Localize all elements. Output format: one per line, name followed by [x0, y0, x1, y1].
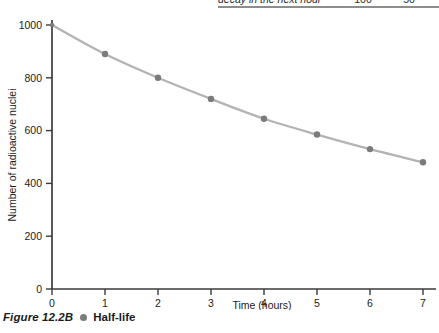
x-axis-title: Time (hours): [232, 299, 291, 310]
y-axis-ticks: 02004006008001000: [19, 19, 52, 295]
y-tick-label: 600: [24, 124, 42, 136]
x-tick-label: 6: [367, 297, 373, 309]
data-point: [420, 159, 426, 165]
y-tick-label: 1000: [19, 19, 43, 31]
decay-curve: [52, 25, 423, 162]
filled-circle-icon: [80, 314, 87, 321]
data-point: [102, 51, 108, 57]
x-tick-label: 1: [102, 297, 108, 309]
x-tick-label: 2: [155, 297, 161, 309]
y-axis-title: Number of radioactive nuclei: [6, 88, 18, 221]
figure-title: Half-life: [93, 311, 135, 323]
data-point: [261, 116, 267, 122]
figure-number: Figure 12.2B: [3, 311, 73, 323]
x-tick-label: 5: [314, 297, 320, 309]
y-tick-label: 200: [24, 230, 42, 242]
x-tick-label: 3: [208, 297, 214, 309]
data-point: [367, 146, 373, 152]
data-point: [208, 96, 214, 102]
data-point: [314, 131, 320, 137]
data-point: [155, 75, 161, 81]
x-tick-label: 0: [49, 297, 55, 309]
data-point: [50, 23, 54, 27]
half-life-decay-chart: 02004006008001000 01234567 Number of rad…: [0, 0, 439, 310]
y-tick-label: 800: [24, 72, 42, 84]
chart-svg: 02004006008001000 01234567 Number of rad…: [0, 0, 439, 310]
data-points: [50, 23, 426, 166]
x-tick-label: 7: [420, 297, 426, 309]
y-tick-label: 400: [24, 177, 42, 189]
y-tick-label: 0: [36, 283, 42, 295]
figure-caption: Figure 12.2B Half-life: [3, 311, 135, 323]
